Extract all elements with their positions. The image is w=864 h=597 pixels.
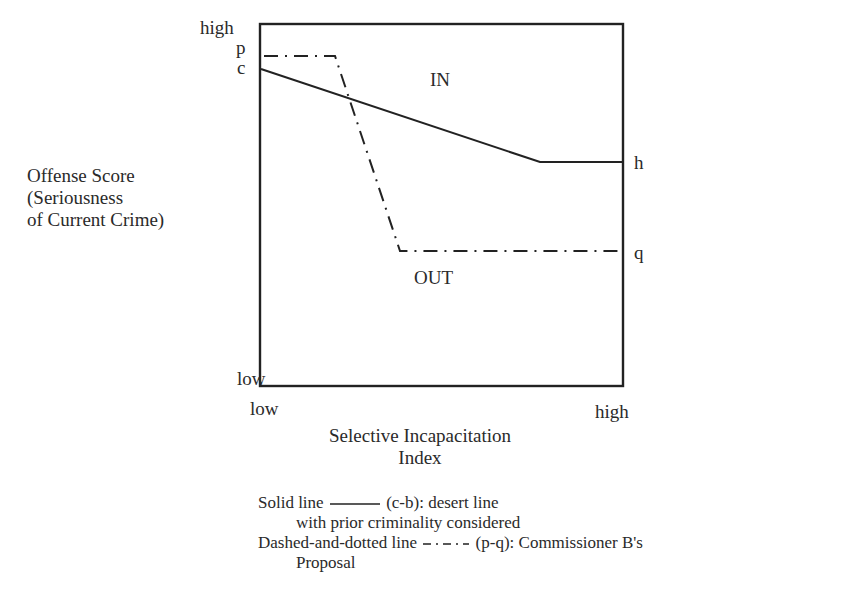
dashdot-line-swatch-icon (421, 539, 471, 549)
x-axis-title-line-2: Index (300, 447, 540, 469)
y-tick-low: low (237, 369, 266, 389)
solid-line-swatch-icon (328, 499, 382, 509)
y-axis-title-line-1: Offense Score (27, 165, 164, 187)
region-label-out: OUT (414, 268, 453, 288)
y-axis-title-line-3: of Current Crime) (27, 209, 164, 231)
y-axis-title-line-2: (Seriousness (27, 187, 164, 209)
legend-item-solid: Solid line (c-b): desert line (258, 493, 643, 513)
legend: Solid line (c-b): desert line with prior… (258, 493, 643, 573)
legend-item-dashdot: Dashed-and-dotted line (p-q): Commission… (258, 533, 643, 553)
legend-dashdot-prefix: Dashed-and-dotted line (258, 533, 417, 552)
legend-solid-prefix: Solid line (258, 493, 324, 512)
x-axis-title-line-1: Selective Incapacitation (300, 425, 540, 447)
legend-dashdot-suffix: (p-q): Commissioner B's (476, 533, 643, 552)
point-label-c: c (237, 58, 245, 78)
x-tick-high: high (595, 402, 629, 422)
x-tick-low: low (250, 399, 279, 419)
point-label-p: p (236, 38, 246, 58)
legend-solid-continuation: with prior criminality considered (258, 513, 643, 533)
legend-solid-suffix: (c-b): desert line (386, 493, 498, 512)
legend-dashdot-continuation: Proposal (258, 553, 643, 573)
point-label-q: q (634, 243, 644, 263)
region-label-in: IN (430, 70, 450, 90)
point-label-h: h (634, 153, 644, 173)
y-axis-title: Offense Score (Seriousness of Current Cr… (27, 165, 164, 231)
y-tick-high: high (200, 18, 234, 38)
x-axis-title: Selective Incapacitation Index (300, 425, 540, 469)
